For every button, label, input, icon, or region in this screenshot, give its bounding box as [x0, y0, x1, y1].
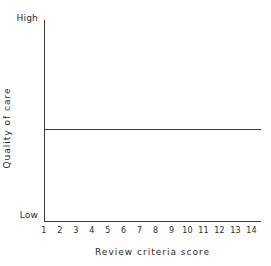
- y-axis-line: [44, 20, 45, 222]
- x-axis-title: Review criteria score: [44, 246, 261, 258]
- x-axis-tick-label: 9: [169, 225, 174, 236]
- x-axis-tick-label: 5: [105, 225, 110, 236]
- y-axis-low-label: Low: [20, 210, 38, 221]
- data-series-line: [44, 129, 261, 130]
- x-axis-tick-labels: 1234567891011121314: [44, 225, 261, 237]
- x-axis-tick-label: 1: [41, 225, 46, 236]
- x-axis-tick-label: 10: [182, 225, 193, 236]
- x-axis-tick-label: 3: [73, 225, 78, 236]
- x-axis-tick-label: 2: [57, 225, 62, 236]
- x-axis-line: [44, 221, 261, 222]
- x-axis-tick-label: 12: [214, 225, 225, 236]
- x-axis-tick-label: 6: [121, 225, 126, 236]
- y-axis-title: Quality of care: [0, 27, 14, 229]
- x-axis-tick-label: 11: [198, 225, 209, 236]
- x-axis-tick-label: 14: [246, 225, 257, 236]
- x-axis-tick-label: 7: [137, 225, 142, 236]
- x-axis-tick-label: 8: [153, 225, 158, 236]
- x-axis-tick-label: 4: [89, 225, 94, 236]
- x-axis-tick-label: 13: [230, 225, 241, 236]
- chart-figure: High Low Quality of care 123456789101112…: [0, 0, 271, 266]
- y-axis-high-label: High: [17, 13, 39, 24]
